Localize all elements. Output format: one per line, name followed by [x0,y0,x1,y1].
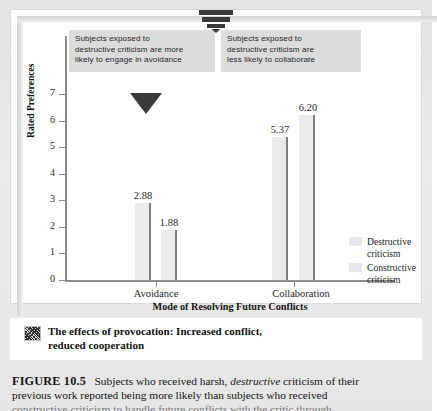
chart-legend: Destructive criticism Constructive criti… [349,236,416,288]
bar-avoidance-destructive [135,203,151,280]
bar-collaboration-constructive [299,115,315,280]
y-tick-label-6: 6 [50,114,55,125]
callout-avoidance-line1: Subjects exposed to [75,34,209,45]
y-tick-label-7: 7 [50,87,55,98]
figure-caption-line1-text-b: criticism of their [280,375,359,387]
bar-label-avoidance-destructive: 2.88 [134,190,152,201]
y-tick-7: 7 [59,94,65,95]
x-tick-avoidance [156,282,157,287]
callout-collaboration-line2: destructive criticism are [227,45,355,56]
bar-avoidance-constructive [161,230,177,280]
callout-avoidance-line2: destructive criticism are more [75,45,209,56]
figure-caption-line1: FIGURE 10.5 Subjects who received harsh,… [12,374,422,388]
y-tick-2: 2 [59,227,65,228]
annotation-callout-avoidance: Subjects exposed to destructive criticis… [69,30,215,72]
y-tick-1: 1 [59,253,65,254]
y-tick-label-5: 5 [50,140,55,151]
effects-summary-line2: reduced cooperation [48,338,262,352]
y-tick-5: 5 [59,147,65,148]
x-axis-title: Mode of Resolving Future Conflicts [65,301,395,312]
y-tick-3: 3 [59,200,65,201]
bar-label-collaboration-destructive: 5.37 [271,124,289,135]
y-axis-title: Rated Preferences [25,64,36,139]
callout-collaboration-line1: Subjects exposed to [227,34,355,45]
annotation-callout-collaboration: Subjects exposed to destructive criticis… [221,30,361,72]
bar-label-avoidance-constructive: 1.88 [160,217,178,228]
figure-caption: FIGURE 10.5 Subjects who received harsh,… [12,374,422,403]
bar-collaboration-destructive [272,137,288,280]
y-tick-4: 4 [59,174,65,175]
effects-summary-panel: The effects of provocation: Increased co… [10,318,422,360]
y-tick-label-3: 3 [50,193,55,204]
effects-summary-text: The effects of provocation: Increased co… [48,324,262,352]
y-tick-label-4: 4 [50,167,55,178]
callout-avoidance-line3: likely to engage in avoidance [75,55,209,66]
panel-frame-left [17,16,23,316]
y-tick-0: 0 [59,280,65,281]
x-tick-collaboration [294,282,295,287]
halftone-square-icon [24,326,41,341]
x-axis-line [65,280,395,282]
bar-label-collaboration-constructive: 6.20 [299,102,317,113]
x-tick-label-avoidance: Avoidance [134,288,179,299]
legend-label-constructive-line1: Constructive [367,262,416,274]
callout-collaboration-line3: less likely to collaborate [227,55,355,66]
legend-label-destructive-line1: Destructive [367,236,416,248]
legend-swatch-destructive [349,237,362,246]
y-tick-label-2: 2 [50,220,55,231]
figure-number: FIGURE 10.5 [12,374,86,388]
figure-caption-line3-clipped: constructive criticism to handle future … [12,402,332,411]
y-tick-label-0: 0 [50,273,55,284]
legend-label-destructive-line2: criticism [367,248,416,260]
figure-caption-line1-text-a: Subjects who received harsh, [95,375,231,387]
legend-item-constructive: Constructive criticism [349,262,416,285]
chart-panel: Subjects exposed to destructive criticis… [10,9,422,304]
figure-caption-line2: previous work reported being more likely… [12,388,422,402]
figure-caption-emphasis: destructive [230,375,280,387]
y-tick-label-1: 1 [50,246,55,257]
y-axis-line [65,36,67,281]
legend-label-constructive-line2: criticism [367,274,416,286]
x-tick-label-collaboration: Collaboration [272,288,330,299]
legend-swatch-constructive [349,263,362,272]
effects-summary-line1: The effects of provocation: Increased co… [48,324,262,338]
down-triangle-icon [130,93,162,114]
y-tick-6: 6 [59,121,65,122]
legend-item-destructive: Destructive criticism [349,236,416,259]
